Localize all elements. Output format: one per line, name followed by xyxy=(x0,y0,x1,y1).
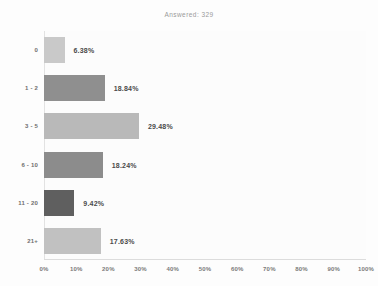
bar-segment[interactable] xyxy=(44,113,139,139)
category-label: 21+ xyxy=(0,238,38,244)
x-tick-label: 20% xyxy=(102,266,115,272)
plot-area xyxy=(44,31,366,260)
x-tick-label: 50% xyxy=(199,266,212,272)
bar-segment[interactable] xyxy=(44,75,105,101)
category-label: 3 - 5 xyxy=(0,123,38,129)
bar-row: 18.84% xyxy=(44,75,366,101)
y-axis-line xyxy=(44,31,45,260)
bar-value-label: 18.84% xyxy=(114,85,139,92)
x-tick-label: 60% xyxy=(231,266,244,272)
x-tick-label: 70% xyxy=(263,266,276,272)
x-tick-label: 0% xyxy=(39,266,48,272)
bar-value-label: 29.48% xyxy=(148,123,173,130)
bar-segment[interactable] xyxy=(44,37,65,63)
x-tick-label: 100% xyxy=(358,266,374,272)
bar-row: 6.38% xyxy=(44,37,366,63)
chart-title: Answered: 329 xyxy=(0,11,378,18)
category-label: 11 - 20 xyxy=(0,200,38,206)
bar-segment[interactable] xyxy=(44,190,74,216)
x-tick-label: 10% xyxy=(70,266,83,272)
bar-value-label: 9.42% xyxy=(83,199,104,206)
bar-segment[interactable] xyxy=(44,228,101,254)
bar-row: 9.42% xyxy=(44,190,366,216)
bar-row: 29.48% xyxy=(44,113,366,139)
x-tick-label: 30% xyxy=(134,266,147,272)
bar-row: 18.24% xyxy=(44,152,366,178)
category-label: 0 xyxy=(0,47,38,53)
category-label: 6 - 10 xyxy=(0,162,38,168)
x-tick-label: 90% xyxy=(327,266,340,272)
bar-chart: Answered: 329 6.38%18.84%29.48%18.24%9.4… xyxy=(0,0,378,286)
bar-row: 17.63% xyxy=(44,228,366,254)
x-axis-line xyxy=(44,259,366,260)
x-tick-label: 40% xyxy=(166,266,179,272)
bar-value-label: 18.24% xyxy=(112,161,137,168)
bar-value-label: 6.38% xyxy=(74,47,95,54)
bar-value-label: 17.63% xyxy=(110,237,135,244)
category-label: 1 - 2 xyxy=(0,85,38,91)
bar-segment[interactable] xyxy=(44,152,103,178)
x-tick-label: 80% xyxy=(295,266,308,272)
